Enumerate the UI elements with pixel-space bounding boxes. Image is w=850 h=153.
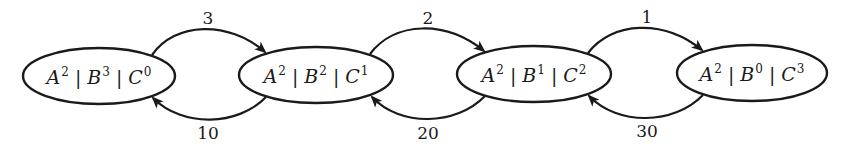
variable: B <box>87 66 101 88</box>
edge-arrow-s2-to-s1 <box>372 96 485 119</box>
exponent: 0 <box>755 62 763 76</box>
separator: | <box>551 64 557 86</box>
separator: | <box>75 66 81 88</box>
edge-arrow-s2-to-s3 <box>588 28 702 53</box>
exponent: 0 <box>144 65 152 79</box>
variable: A <box>700 63 714 85</box>
edge-label: 1 <box>642 7 653 27</box>
variable: A <box>47 66 61 88</box>
edge-label: 3 <box>203 8 214 28</box>
exponent: 2 <box>714 62 722 76</box>
separator: | <box>116 66 122 88</box>
variable: C <box>128 66 143 88</box>
edge-arrow-s0-to-s1 <box>152 29 265 55</box>
edges-layer <box>152 28 703 120</box>
edge-label: 2 <box>423 8 434 28</box>
variable: B <box>740 63 754 85</box>
variable: C <box>563 64 578 86</box>
variable: A <box>482 64 496 86</box>
exponent: 2 <box>61 65 69 79</box>
separator: | <box>333 65 339 87</box>
edge-label: 10 <box>197 123 219 143</box>
variable: C <box>345 65 360 87</box>
exponent: 2 <box>319 64 327 78</box>
edge-label: 30 <box>636 121 658 141</box>
edge-arrow-s1-to-s2 <box>370 28 484 54</box>
exponent: 3 <box>102 65 110 79</box>
state-diagram: 310220130A2|B3|C0A2|B2|C1A2|B1|C2A2|B0|C… <box>0 0 850 153</box>
exponent: 1 <box>537 63 545 77</box>
exponent: 2 <box>579 63 587 77</box>
exponent: 2 <box>278 64 286 78</box>
state-label-s3: A2|B0|C3 <box>700 63 805 85</box>
separator: | <box>769 63 775 85</box>
exponent: 3 <box>797 62 805 76</box>
variable: B <box>522 64 536 86</box>
variable: B <box>304 65 318 87</box>
separator: | <box>292 65 298 87</box>
state-label-s0: A2|B3|C0 <box>47 66 152 88</box>
state-label-s1: A2|B2|C1 <box>264 65 369 87</box>
edge-arrow-s1-to-s0 <box>153 97 266 120</box>
edge-label: 20 <box>417 123 439 143</box>
separator: | <box>728 63 734 85</box>
exponent: 1 <box>361 64 369 78</box>
variable: C <box>781 63 796 85</box>
exponent: 2 <box>496 63 504 77</box>
edge-arrow-s3-to-s2 <box>589 95 703 118</box>
state-label-s2: A2|B1|C2 <box>482 64 587 86</box>
variable: A <box>264 65 278 87</box>
separator: | <box>510 64 516 86</box>
